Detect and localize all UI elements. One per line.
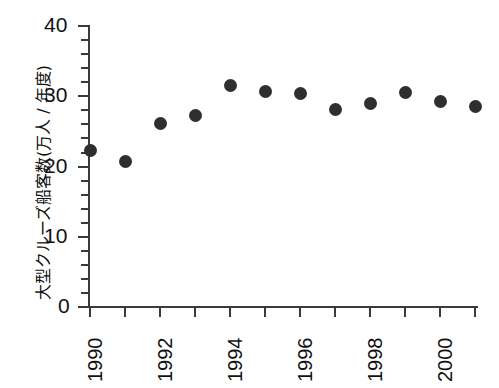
data-point xyxy=(259,85,272,98)
x-tick xyxy=(299,307,301,317)
data-point xyxy=(154,117,167,130)
y-tick-label-30: 30 xyxy=(44,83,67,107)
x-tick xyxy=(159,307,161,317)
x-tick xyxy=(474,307,476,317)
data-point xyxy=(329,103,342,116)
y-tick-minor xyxy=(81,250,89,252)
y-tick-major-20 xyxy=(78,166,89,168)
x-tick xyxy=(334,307,336,317)
y-tick-minor xyxy=(81,39,89,41)
y-tick-minor xyxy=(81,81,89,83)
y-tick-major-10 xyxy=(78,236,89,238)
x-tick-label-2000: 2000 xyxy=(434,338,457,383)
y-tick-major-0 xyxy=(78,306,89,308)
x-tick-label-1990: 1990 xyxy=(84,338,107,383)
data-point xyxy=(364,97,377,110)
x-tick xyxy=(124,307,126,317)
x-tick xyxy=(194,307,196,317)
data-point xyxy=(434,95,447,108)
y-tick-minor xyxy=(81,292,89,294)
data-point xyxy=(189,109,202,122)
x-tick xyxy=(264,307,266,317)
data-point xyxy=(294,87,307,100)
x-tick xyxy=(369,307,371,317)
x-tick xyxy=(439,307,441,317)
y-tick-major-40 xyxy=(78,25,89,27)
y-tick-minor xyxy=(81,67,89,69)
x-tick xyxy=(89,307,91,317)
data-point xyxy=(469,100,482,113)
x-tick xyxy=(404,307,406,317)
data-point xyxy=(399,86,412,99)
x-tick-label-1998: 1998 xyxy=(364,338,387,383)
y-tick-minor xyxy=(81,123,89,125)
y-tick-minor xyxy=(81,208,89,210)
y-tick-minor xyxy=(81,53,89,55)
y-tick-minor xyxy=(81,222,89,224)
y-tick-minor xyxy=(81,180,89,182)
y-tick-major-30 xyxy=(78,95,89,97)
scatter-chart: 大型クルーズ船客数(万人 / 年度) 40 30 20 10 0 1990 19… xyxy=(0,0,499,388)
x-axis-line xyxy=(88,306,478,308)
y-tick-label-40: 40 xyxy=(44,13,67,37)
y-tick-minor xyxy=(81,137,89,139)
y-tick-minor xyxy=(81,109,89,111)
y-tick-label-10: 10 xyxy=(44,224,67,248)
y-tick-label-20: 20 xyxy=(44,154,67,178)
data-point xyxy=(224,79,237,92)
x-tick xyxy=(229,307,231,317)
data-point xyxy=(84,144,97,157)
x-tick-label-1996: 1996 xyxy=(294,338,317,383)
x-tick-label-1992: 1992 xyxy=(154,338,177,383)
y-tick-minor xyxy=(81,264,89,266)
y-tick-minor xyxy=(81,194,89,196)
x-tick-label-1994: 1994 xyxy=(224,338,247,383)
y-tick-label-0: 0 xyxy=(58,294,70,318)
y-tick-minor xyxy=(81,278,89,280)
data-point xyxy=(119,155,132,168)
